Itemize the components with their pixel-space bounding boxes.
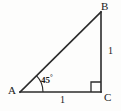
- right-angle-marker-c: [91, 82, 101, 92]
- vertex-label-c: C: [104, 92, 111, 103]
- angle-measure-label-a: 45°: [41, 74, 53, 85]
- vertex-label-b: B: [101, 1, 108, 12]
- angle-value: 45: [41, 75, 50, 85]
- geometry-figure: A B C 1 1 45°: [0, 0, 121, 111]
- degree-symbol-icon: °: [50, 73, 53, 81]
- side-ab-line: [20, 12, 101, 92]
- vertex-label-a: A: [8, 85, 16, 96]
- side-length-label-ac: 1: [60, 95, 65, 105]
- side-length-label-bc: 1: [108, 46, 113, 56]
